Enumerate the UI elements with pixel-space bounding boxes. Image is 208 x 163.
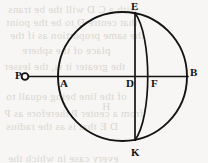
point-label-b: B (190, 67, 197, 78)
point-label-d: D (126, 78, 134, 89)
point-label-p: P (15, 70, 22, 81)
point-label-e: E (131, 1, 138, 12)
point-label-f: F (151, 78, 158, 89)
point-label-k: K (131, 147, 140, 158)
geometry-figure (0, 0, 208, 163)
point-marker-p (22, 73, 29, 80)
figure-page: with a C D will the be trans that centre… (0, 0, 208, 163)
point-label-a: A (60, 78, 68, 89)
